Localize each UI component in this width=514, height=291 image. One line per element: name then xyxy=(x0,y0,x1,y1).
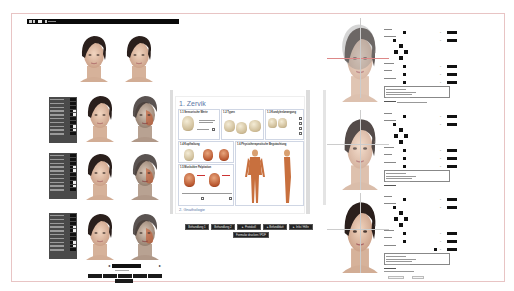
scrollbar-right[interactable] xyxy=(306,90,310,214)
slider-handle[interactable] xyxy=(403,232,406,235)
panel-toggle[interactable] xyxy=(73,132,76,135)
behandlung-1-button[interactable]: Behandlung 1 xyxy=(185,224,209,230)
panel-toggle[interactable] xyxy=(73,154,76,157)
value-field[interactable] xyxy=(447,39,457,42)
panel-toggle[interactable] xyxy=(73,237,76,240)
value-field[interactable] xyxy=(447,165,457,168)
form-action-button-2[interactable] xyxy=(412,276,424,279)
slider-handle[interactable] xyxy=(393,39,396,42)
value-field[interactable] xyxy=(447,65,457,68)
panel-toggle[interactable] xyxy=(73,129,76,132)
panel-toggle[interactable] xyxy=(73,98,76,101)
face-photo-row4-right-anatomy[interactable] xyxy=(127,208,163,260)
face-photo-row4-left[interactable] xyxy=(82,208,118,260)
value-field[interactable] xyxy=(447,123,457,126)
dpad-left[interactable] xyxy=(394,50,398,54)
panel-toggle[interactable] xyxy=(73,181,76,184)
value-field[interactable] xyxy=(447,73,457,76)
checkbox[interactable] xyxy=(299,117,302,120)
right-scrollbar[interactable] xyxy=(323,90,326,205)
face-photo-row1-right[interactable] xyxy=(121,30,157,82)
slider-handle[interactable] xyxy=(393,206,396,209)
notes-textarea[interactable] xyxy=(384,170,450,182)
value-field[interactable] xyxy=(447,248,457,251)
toolbar-chat-button[interactable] xyxy=(38,20,42,23)
dpad-left[interactable] xyxy=(394,217,398,221)
value-field[interactable] xyxy=(447,240,457,243)
left-bottom-button-2[interactable] xyxy=(103,274,117,278)
checkbox[interactable] xyxy=(212,128,215,131)
left-bottom-button-4[interactable] xyxy=(133,274,147,278)
panel-toggle[interactable] xyxy=(73,188,76,191)
panel-toggle[interactable] xyxy=(73,102,76,105)
notes-textarea[interactable] xyxy=(384,253,450,265)
value-field[interactable] xyxy=(447,198,457,201)
toolbar-grid-button[interactable] xyxy=(29,20,35,23)
dpad-up[interactable] xyxy=(399,128,403,132)
value-field[interactable] xyxy=(447,206,457,209)
slider-handle[interactable] xyxy=(403,31,406,34)
pager-prev-button[interactable]: ◂ xyxy=(108,263,110,268)
panel-toggle[interactable] xyxy=(73,226,76,229)
dpad-down[interactable] xyxy=(399,56,403,60)
print-pdf-button[interactable]: Formular drucken / PDF xyxy=(233,232,269,238)
dpad-down[interactable] xyxy=(399,140,403,144)
pager-next-button[interactable]: ▸ xyxy=(159,263,161,268)
slider-handle[interactable] xyxy=(403,149,406,152)
panel-toggle[interactable] xyxy=(73,166,76,169)
panel-toggle[interactable] xyxy=(73,173,76,176)
left-bottom-button-1[interactable] xyxy=(88,274,102,278)
checkbox[interactable] xyxy=(201,197,204,200)
dpad-right[interactable] xyxy=(404,217,408,221)
panel-toggle[interactable] xyxy=(73,229,76,232)
panel-toggle[interactable] xyxy=(73,121,76,124)
slider-handle[interactable] xyxy=(403,65,406,68)
slider-handle[interactable] xyxy=(403,157,406,160)
value-field[interactable] xyxy=(447,149,457,152)
form-action-button-1[interactable] xyxy=(388,276,404,279)
face-photo-row3-right-anatomy[interactable] xyxy=(127,148,163,200)
value-field[interactable] xyxy=(447,157,457,160)
dpad-right[interactable] xyxy=(404,50,408,54)
panel-toggle[interactable] xyxy=(73,162,76,165)
panel-toggle[interactable] xyxy=(73,241,76,244)
slider-handle[interactable] xyxy=(434,248,437,251)
panel-toggle[interactable] xyxy=(73,245,76,248)
panel-toggle[interactable] xyxy=(73,110,76,113)
slider-handle[interactable] xyxy=(403,115,406,118)
info-hilfe-button[interactable]: ▸ Info / Hilfe xyxy=(289,224,313,230)
slider-handle[interactable] xyxy=(403,73,406,76)
checkbox[interactable] xyxy=(299,127,302,130)
toolbar-user-button[interactable] xyxy=(45,20,56,23)
value-field[interactable] xyxy=(447,232,457,235)
left-bottom-button-3[interactable] xyxy=(118,274,132,278)
value-field[interactable] xyxy=(447,115,457,118)
dpad-up[interactable] xyxy=(399,44,403,48)
face-photo-row2-right-anatomy[interactable] xyxy=(127,90,163,142)
slider-handle[interactable] xyxy=(403,198,406,201)
panel-toggle[interactable] xyxy=(73,248,76,251)
slider-handle[interactable] xyxy=(403,240,406,243)
slider-handle[interactable] xyxy=(393,123,396,126)
protokoll-button[interactable]: ▸ Protokoll xyxy=(237,224,261,230)
dpad-up[interactable] xyxy=(399,211,403,215)
panel-toggle[interactable] xyxy=(73,233,76,236)
dpad-down[interactable] xyxy=(399,223,403,227)
face-photo-row3-left[interactable] xyxy=(82,148,118,200)
checkbox[interactable] xyxy=(229,197,232,200)
value-field[interactable] xyxy=(447,31,457,34)
panel-toggle[interactable] xyxy=(73,218,76,221)
panel-toggle[interactable] xyxy=(73,214,76,217)
checkbox[interactable] xyxy=(299,122,302,125)
befundblatt-button[interactable]: ▸ Befundblatt xyxy=(263,224,287,230)
left-bottom-button-5[interactable] xyxy=(148,274,162,278)
behandlung-2-button[interactable]: Behandlung 2 xyxy=(211,224,235,230)
panel-toggle[interactable] xyxy=(73,117,76,120)
panel-toggle[interactable] xyxy=(73,125,76,128)
panel-toggle[interactable] xyxy=(73,169,76,172)
panel-toggle[interactable] xyxy=(73,113,76,116)
face-photo-row1-left[interactable] xyxy=(76,30,112,82)
face-photo-row2-left[interactable] xyxy=(82,90,118,142)
slider-handle[interactable] xyxy=(403,81,406,84)
checkbox[interactable] xyxy=(299,132,302,135)
